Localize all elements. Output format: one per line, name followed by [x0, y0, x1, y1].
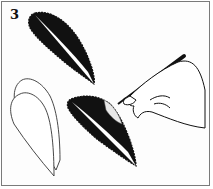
- hand-with-brush: [118, 56, 205, 128]
- dark-leaf-bottom: [67, 96, 136, 166]
- outline-leaves: [11, 79, 60, 176]
- illustration-artwork: [0, 0, 213, 189]
- dark-leaf-top: [29, 12, 95, 84]
